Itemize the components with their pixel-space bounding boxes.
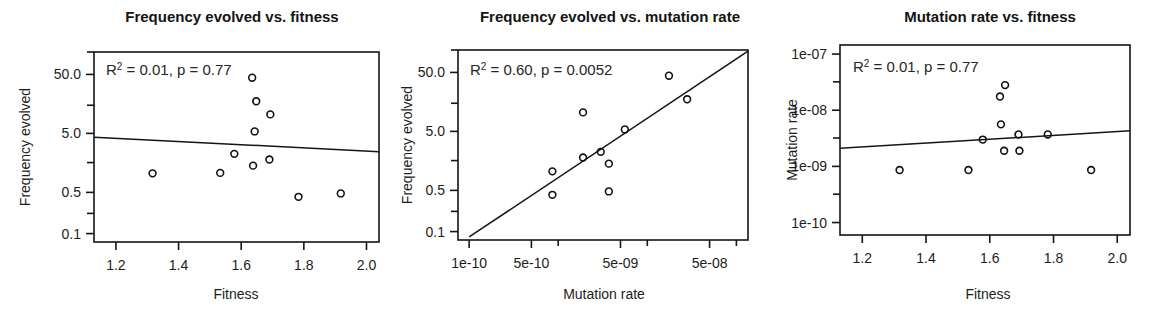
x-tick-label: 1.4 — [916, 250, 936, 266]
y-tick-label: 50.0 — [418, 64, 445, 80]
stats-annotation: R2 = 0.60, p = 0.0052 — [470, 61, 612, 78]
y-tick-label: 50.0 — [54, 66, 81, 82]
panel-title: Frequency evolved vs. fitness — [125, 8, 338, 25]
three-panel-scatter-figure: Frequency evolved vs. fitness1.21.41.61.… — [0, 0, 1164, 316]
x-tick-label: 1e-10 — [451, 255, 487, 271]
y-tick-label: 0.1 — [62, 226, 82, 242]
x-tick-label: 1.6 — [231, 257, 251, 273]
y-tick-label: 5.0 — [62, 125, 82, 141]
x-tick-label: 1.4 — [169, 257, 189, 273]
panel-title: Frequency evolved vs. mutation rate — [480, 8, 740, 25]
y-axis-title: Mutation rate — [784, 99, 800, 181]
x-tick-label: 5e-09 — [603, 255, 639, 271]
stats-annotation: R2 = 0.01, p = 0.77 — [853, 58, 979, 75]
y-tick-label: 0.1 — [426, 224, 446, 240]
x-tick-label: 1.8 — [1044, 250, 1064, 266]
x-tick-label: 2.0 — [1108, 250, 1128, 266]
y-tick-label: 0.5 — [62, 184, 82, 200]
y-tick-label: 5.0 — [426, 123, 446, 139]
panel-title: Mutation rate vs. fitness — [904, 8, 1076, 25]
y-tick-label: 1e-07 — [791, 46, 827, 62]
x-tick-label: 1.6 — [980, 250, 1000, 266]
x-tick-label: 1.8 — [294, 257, 314, 273]
stats-annotation: R2 = 0.01, p = 0.77 — [106, 61, 232, 78]
y-axis-title: Frequency evolved — [17, 88, 33, 206]
y-tick-label: 1e-10 — [791, 215, 827, 231]
x-tick-label: 1.2 — [853, 250, 873, 266]
y-axis-title: Frequency evolved — [399, 86, 415, 204]
x-axis-title: Mutation rate — [563, 286, 645, 302]
x-tick-label: 5e-10 — [513, 255, 549, 271]
x-axis-title: Fitness — [965, 286, 1010, 302]
x-tick-label: 5e-08 — [692, 255, 728, 271]
x-tick-label: 2.0 — [357, 257, 377, 273]
y-tick-label: 0.5 — [426, 182, 446, 198]
x-tick-label: 1.2 — [106, 257, 126, 273]
x-axis-title: Fitness — [213, 286, 258, 302]
